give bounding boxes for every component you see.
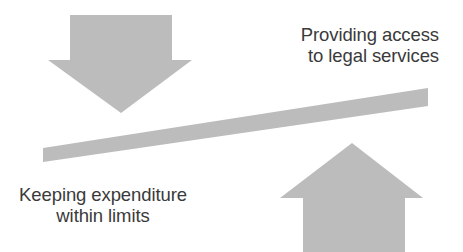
seesaw-beam	[43, 88, 428, 162]
balance-diagram: Providing access to legal services Keepi…	[0, 0, 463, 252]
caption-providing-access: Providing access to legal services	[301, 24, 439, 66]
down-arrow-icon	[48, 15, 192, 113]
up-arrow-icon	[280, 143, 423, 252]
caption-keeping-expenditure: Keeping expenditure within limits	[12, 184, 194, 226]
